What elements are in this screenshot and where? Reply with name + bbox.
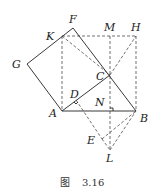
label-E: E <box>86 134 95 147</box>
label-K: K <box>45 30 55 43</box>
label-G: G <box>12 58 21 71</box>
segment-CH <box>110 36 136 75</box>
label-C: C <box>96 70 105 83</box>
label-F: F <box>68 13 77 26</box>
right-angle-mark-D <box>74 102 78 104</box>
label-H: H <box>130 21 141 34</box>
caption-prefix: 图 <box>60 177 70 188</box>
segment-LB <box>110 111 136 150</box>
label-D: D <box>69 88 79 101</box>
caption-number: 3.16 <box>82 177 104 188</box>
label-A: A <box>48 107 57 120</box>
label-M: M <box>103 21 116 34</box>
segment-GA <box>27 64 62 111</box>
segment-EB <box>102 111 136 139</box>
segment-EL <box>102 139 110 150</box>
label-B: B <box>139 112 148 125</box>
label-L: L <box>105 152 113 165</box>
label-N: N <box>94 96 105 109</box>
geometry-figure: F M H K G C D N A B E L 图 3.16 <box>0 0 160 193</box>
